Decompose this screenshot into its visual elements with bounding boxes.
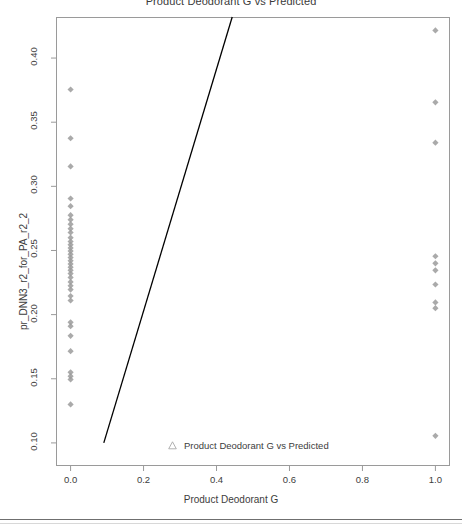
x-tick-label: 0.4 xyxy=(197,474,237,485)
y-axis-title: pr_DNN3_r2_for_PA_r2_2 xyxy=(18,314,29,330)
chart-legend: Product Deodorant G vs Predicted xyxy=(168,440,329,451)
data-point xyxy=(67,333,73,339)
y-tick-label: 0.25 xyxy=(28,234,39,264)
data-point xyxy=(432,267,438,273)
data-point xyxy=(67,297,73,303)
x-tick-label: 0.0 xyxy=(51,474,91,485)
data-point xyxy=(67,195,73,201)
footer-divider xyxy=(0,519,462,520)
x-tick-label: 0.2 xyxy=(124,474,164,485)
x-tick-label: 0.8 xyxy=(342,474,382,485)
data-point xyxy=(432,140,438,146)
data-point xyxy=(67,323,73,329)
data-point xyxy=(67,401,73,407)
data-point xyxy=(432,99,438,105)
data-point xyxy=(432,260,438,266)
data-point xyxy=(432,433,438,439)
data-point xyxy=(67,135,73,141)
y-tick-label: 0.10 xyxy=(28,426,39,456)
x-tick-label: 0.6 xyxy=(269,474,309,485)
chart-canvas: Product Deodorant G vs Predicted 0.100.1… xyxy=(0,0,462,529)
triangle-marker-icon xyxy=(168,441,177,450)
legend-label: Product Deodorant G vs Predicted xyxy=(184,440,329,451)
x-tick-label: 1.0 xyxy=(415,474,455,485)
y-tick-label: 0.30 xyxy=(28,170,39,200)
data-point xyxy=(67,163,73,169)
y-tick-label: 0.40 xyxy=(28,42,39,72)
data-point xyxy=(67,287,73,293)
data-point xyxy=(432,27,438,33)
data-point xyxy=(432,305,438,311)
data-point xyxy=(67,376,73,382)
data-point xyxy=(432,281,438,287)
data-point xyxy=(432,253,438,259)
footer-divider-secondary xyxy=(0,523,462,524)
x-axis-title: Product Deodorant G xyxy=(0,494,462,505)
regression-line xyxy=(104,17,232,443)
y-tick-label: 0.35 xyxy=(28,106,39,136)
data-point xyxy=(67,203,73,209)
y-tick-label: 0.20 xyxy=(28,298,39,328)
data-point xyxy=(67,86,73,92)
y-tick-label: 0.15 xyxy=(28,362,39,392)
data-point xyxy=(432,299,438,305)
data-point xyxy=(67,348,73,354)
